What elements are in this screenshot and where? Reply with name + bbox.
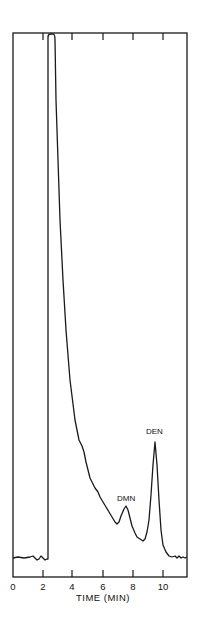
chromatogram-chart: DMN DEN 0 2 4 6 8 10 TIME (MIN)	[0, 0, 198, 633]
peak-label-dmn: DMN	[117, 494, 135, 503]
x-tick-labels: 0 2 4 6 8 10	[10, 581, 168, 592]
peak-label-den: DEN	[146, 427, 163, 436]
tick-label-10: 10	[158, 581, 169, 592]
tick-label-4: 4	[69, 581, 74, 592]
tick-label-8: 8	[130, 581, 135, 592]
chromatogram-trace	[13, 34, 187, 560]
top-axis-ticks	[43, 33, 163, 40]
x-axis-ticks	[43, 570, 163, 577]
tick-label-6: 6	[100, 581, 105, 592]
tick-label-2: 2	[40, 581, 45, 592]
tick-label-0: 0	[10, 581, 15, 592]
x-axis-title: TIME (MIN)	[76, 592, 130, 603]
